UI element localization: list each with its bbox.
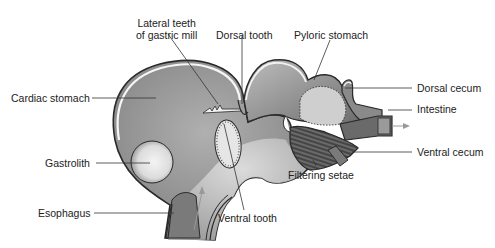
label-pyloric-stomach: Pyloric stomach (294, 29, 368, 41)
label-cardiac-stomach: Cardiac stomach (11, 92, 90, 104)
gastrolith-shape (131, 141, 173, 183)
label-filtering-setae: Filtering setae (288, 169, 354, 181)
label-lateral-teeth-line2: of gastric mill (136, 29, 197, 41)
label-dorsal-tooth: Dorsal tooth (216, 29, 273, 41)
label-dorsal-cecum: Dorsal cecum (417, 82, 481, 94)
label-lateral-teeth: Lateral teeth of gastric mill (136, 17, 197, 41)
label-intestine: Intestine (417, 103, 457, 115)
label-esophagus: Esophagus (38, 207, 91, 219)
label-ventral-cecum: Ventral cecum (417, 146, 484, 158)
label-lateral-teeth-line1: Lateral teeth (136, 17, 197, 29)
label-ventral-tooth: Ventral tooth (218, 212, 277, 224)
label-gastrolith: Gastrolith (45, 157, 90, 169)
